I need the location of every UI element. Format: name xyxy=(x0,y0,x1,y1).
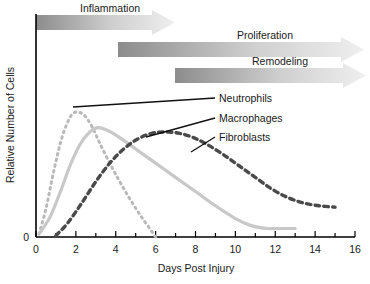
y-axis-title: Relative Number of Cells xyxy=(4,67,16,183)
x-tick-label: 12 xyxy=(269,243,281,255)
x-axis-ticks xyxy=(36,231,355,237)
phase-label-inflammation: Inflammation xyxy=(80,2,140,14)
series-curve-fibroblasts xyxy=(56,132,335,236)
curve-label-fibroblasts: Fibroblasts xyxy=(219,131,270,143)
callout-group: Neutrophils Macrophages Fibroblasts xyxy=(73,92,283,152)
chart-series-group xyxy=(39,112,335,237)
x-axis-title: Days Post Injury xyxy=(158,262,235,274)
leader-line-neutrophils xyxy=(73,98,215,107)
series-curve-macrophages xyxy=(40,128,295,233)
phase-arrow-remodeling: Remodeling xyxy=(175,55,366,88)
phase-label-proliferation: Proliferation xyxy=(237,29,293,41)
chart-canvas: Inflammation Proliferation Remodeling 02… xyxy=(0,0,370,284)
x-tick-label: 6 xyxy=(153,243,159,255)
x-axis-tick-labels: 0246810121416 xyxy=(33,243,361,255)
x-tick-label: 8 xyxy=(193,243,199,255)
phase-arrow-proliferation: Proliferation xyxy=(118,29,364,62)
x-tick-label: 14 xyxy=(309,243,321,255)
x-tick-label: 10 xyxy=(230,243,242,255)
phase-label-remodeling: Remodeling xyxy=(252,55,308,67)
series-curve-neutrophils xyxy=(39,112,156,237)
x-tick-label: 16 xyxy=(349,243,361,255)
phase-arrow-inflammation: Inflammation xyxy=(36,2,175,35)
y-origin-label: 0 xyxy=(23,231,29,243)
x-tick-label: 0 xyxy=(33,243,39,255)
x-tick-label: 4 xyxy=(113,243,119,255)
curve-label-neutrophils: Neutrophils xyxy=(219,92,272,104)
curve-label-macrophages: Macrophages xyxy=(219,112,283,124)
x-tick-label: 2 xyxy=(73,243,79,255)
wound-healing-chart-figure: Inflammation Proliferation Remodeling 02… xyxy=(0,0,370,284)
